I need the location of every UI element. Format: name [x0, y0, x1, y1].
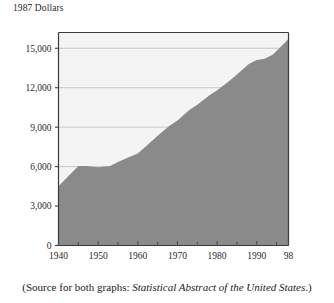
x-tick-label-1960: 1960	[128, 251, 147, 261]
caption-prefix: (Source for both graphs:	[22, 281, 132, 293]
x-tick-label-1990: 1990	[247, 251, 266, 261]
area-chart: 03,0006,0009,00012,00015,000 19401950196…	[0, 0, 334, 270]
y-tick-label-0: 0	[47, 241, 52, 251]
caption-suffix: .)	[305, 281, 311, 293]
y-tick-label-15000: 15,000	[25, 44, 51, 54]
caption-source-title: Statistical Abstract of the United State…	[132, 281, 305, 293]
x-tick-label-1950: 1950	[89, 251, 108, 261]
x-tick-label-1940: 1940	[49, 251, 68, 261]
y-tick-label-9000: 9,000	[30, 123, 52, 133]
y-tick-label-3000: 3,000	[30, 201, 52, 211]
figure-caption: (Source for both graphs: Statistical Abs…	[0, 281, 334, 293]
x-tick-label-98: 98	[284, 251, 294, 261]
x-tick-label-1980: 1980	[208, 251, 227, 261]
y-tick-label-12000: 12,000	[25, 83, 51, 93]
y-tick-labels-group: 03,0006,0009,00012,00015,000	[25, 44, 51, 251]
plot-area-container: 03,0006,0009,00012,00015,000 19401950196…	[0, 0, 334, 270]
y-tick-label-6000: 6,000	[30, 162, 52, 172]
x-tick-labels-group: 19401950196019701980199098	[49, 251, 294, 261]
chart-figure: 1987 Dollars 03,0006,0009,00012,00015,00…	[0, 0, 334, 303]
x-tick-label-1970: 1970	[168, 251, 187, 261]
